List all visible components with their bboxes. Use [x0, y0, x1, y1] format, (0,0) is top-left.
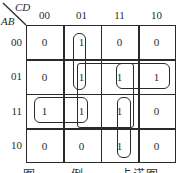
- row-header-11: 11: [2, 105, 22, 117]
- cell-00-10: 0: [138, 25, 175, 59]
- col-header-11: 11: [101, 9, 138, 21]
- cell-01-00: 0: [26, 60, 63, 94]
- figure-caption: 图 …… 例 …… 卡诺图: [0, 165, 182, 173]
- col-header-01: 01: [63, 9, 100, 21]
- cell-11-10: 0: [138, 94, 175, 128]
- cell-00-11: 0: [101, 25, 138, 59]
- cell-10-01: 0: [63, 129, 100, 163]
- row-header-00: 00: [2, 36, 22, 48]
- cell-10-00: 0: [26, 129, 63, 163]
- col-header-10: 10: [138, 9, 175, 21]
- col-header-00: 00: [26, 9, 63, 21]
- group-loop-quad-cols01-11-rows01-11: [77, 63, 134, 128]
- cell-00-00: 0: [26, 25, 63, 59]
- row-variable-label: AB: [1, 15, 14, 27]
- cell-10-10: 0: [138, 129, 175, 163]
- row-header-10: 10: [2, 139, 22, 151]
- row-header-01: 01: [2, 70, 22, 82]
